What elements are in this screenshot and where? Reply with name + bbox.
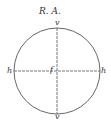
label-right-h: h xyxy=(101,67,106,75)
label-center-f: f xyxy=(50,66,53,74)
label-left-h: h xyxy=(7,67,12,75)
label-top-v: v xyxy=(55,19,60,27)
label-bottom-v: v xyxy=(55,113,60,120)
